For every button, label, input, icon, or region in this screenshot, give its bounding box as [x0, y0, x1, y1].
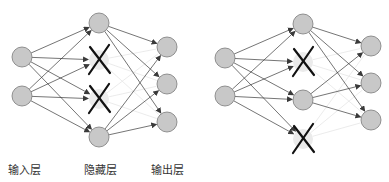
connection	[309, 32, 365, 111]
input-neuron	[215, 86, 235, 106]
output-neuron	[157, 74, 177, 94]
hidden-neuron	[293, 14, 313, 34]
connection	[31, 62, 90, 94]
hidden-neuron	[293, 90, 313, 110]
connection	[313, 86, 361, 98]
connection	[31, 101, 89, 132]
connection	[105, 56, 160, 129]
hidden-layer-label: 隐藏层	[84, 161, 117, 177]
connection	[235, 97, 292, 100]
dropout-diagram	[0, 0, 389, 182]
input-neuron	[12, 86, 32, 106]
connection	[31, 27, 89, 53]
connection	[234, 63, 294, 95]
dropped-connection	[109, 86, 156, 96]
connection	[313, 27, 361, 43]
connection	[29, 31, 91, 90]
output-neuron	[361, 73, 381, 93]
dropped-connection	[108, 102, 156, 118]
output-layer-label: 输出层	[151, 161, 184, 177]
connection	[232, 31, 295, 89]
dropped-connection	[313, 65, 361, 80]
output-neuron	[157, 37, 177, 57]
connection	[32, 57, 88, 59]
input-neuron	[12, 47, 32, 67]
output-neuron	[361, 110, 381, 130]
dropped-connection	[311, 68, 363, 112]
dropped-connection	[106, 67, 158, 115]
dropped-connection	[313, 49, 361, 60]
connection	[105, 31, 161, 113]
connection	[31, 65, 89, 92]
connection	[235, 59, 292, 62]
hidden-neuron	[89, 13, 109, 33]
connection	[107, 91, 158, 131]
dropped-connection	[107, 54, 158, 93]
hidden-neuron	[89, 127, 109, 147]
connection	[234, 101, 294, 134]
dropped-connection	[109, 49, 156, 58]
dropped-connections	[106, 49, 364, 137]
output-neuron	[157, 112, 177, 132]
input-neuron	[215, 48, 235, 68]
connections	[29, 26, 365, 135]
connection	[106, 30, 158, 77]
connection	[108, 26, 156, 43]
connection	[311, 31, 363, 76]
connection	[109, 124, 156, 134]
output-neuron	[361, 36, 381, 56]
input-layer-label: 输入层	[8, 161, 41, 177]
connection	[311, 53, 363, 94]
